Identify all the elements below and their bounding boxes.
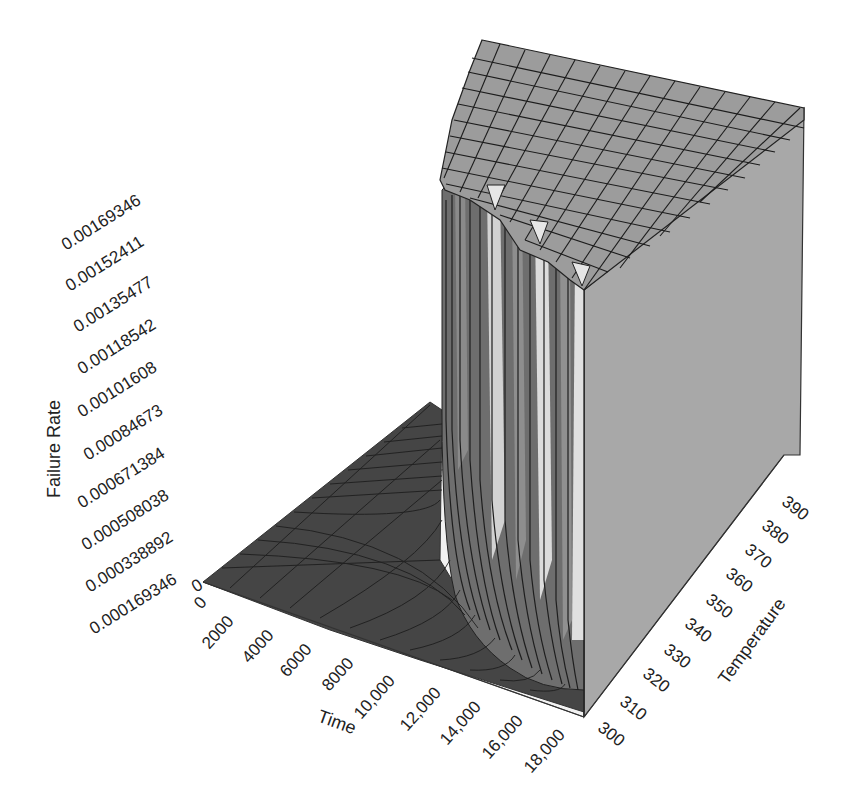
surface-plot <box>0 0 852 806</box>
z-axis-title: Failure Rate <box>44 400 65 498</box>
